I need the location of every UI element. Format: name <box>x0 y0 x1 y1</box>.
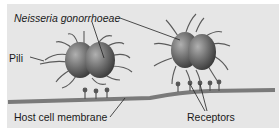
label-receptors: Receptors <box>187 112 235 123</box>
label-organism: Neisseria gonorrhoeae <box>14 13 120 24</box>
host-cell-membrane <box>8 90 275 102</box>
label-pili: Pili <box>9 53 23 64</box>
label-membrane: Host cell membrane <box>14 112 107 123</box>
bacterium-left <box>65 42 115 78</box>
bacterium-right <box>171 32 216 70</box>
